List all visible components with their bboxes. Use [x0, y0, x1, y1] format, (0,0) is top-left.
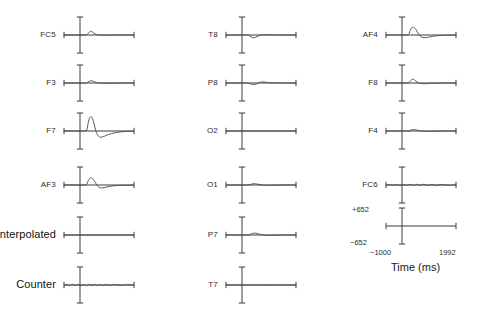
- channel-label-p8: P8: [174, 79, 218, 87]
- channel-cell-t8: [222, 14, 304, 56]
- channel-label-fc6: FC6: [334, 181, 378, 189]
- channel-cell-o1: [222, 164, 304, 206]
- waveform-trace-f4: [386, 130, 456, 132]
- channel-plot-p8: [222, 62, 300, 104]
- erp-channel-grid: FC5F3F7AF3InterpolatedCounterT8P8O2O1P7T…: [0, 0, 477, 320]
- channel-cell-f7: [60, 110, 142, 152]
- channel-label-t7: T7: [174, 281, 218, 289]
- channel-cell-p8: [222, 62, 304, 104]
- channel-label-f8: F8: [334, 79, 378, 87]
- channel-label-fc5: FC5: [12, 31, 56, 39]
- waveform-trace-fc5: [64, 31, 134, 35]
- x-axis-min-label: −1000: [370, 249, 391, 257]
- channel-cell-f8: [382, 62, 464, 104]
- channel-cell-af4: [382, 14, 464, 56]
- channel-plot-f8: [382, 62, 460, 104]
- channel-cell-f3: [60, 62, 142, 104]
- channel-cell-fc5: [60, 14, 142, 56]
- channel-label-t8: T8: [174, 31, 218, 39]
- channel-cell-counter: [60, 264, 142, 306]
- channel-cell-p7: [222, 214, 304, 256]
- scale-bar-cell: [382, 205, 464, 247]
- waveform-trace-o1: [226, 184, 296, 186]
- waveform-trace-t8: [226, 35, 296, 38]
- x-axis-title: Time (ms): [391, 262, 440, 273]
- channel-cell-f4: [382, 110, 464, 152]
- channel-plot-t8: [222, 14, 300, 56]
- channel-plot-f7: [60, 110, 138, 152]
- channel-plot-p7: [222, 214, 300, 256]
- channel-plot-t7: [222, 264, 300, 306]
- waveform-trace-f7: [64, 117, 134, 138]
- channel-cell-interpolated: [60, 214, 142, 256]
- channel-plot-fc6: [382, 164, 460, 206]
- channel-label-o2: O2: [174, 127, 218, 135]
- channel-plot-af3: [60, 164, 138, 206]
- channel-cell-fc6: [382, 164, 464, 206]
- scale-axes: [382, 205, 460, 247]
- channel-cell-af3: [60, 164, 142, 206]
- channel-plot-interpolated: [60, 214, 138, 256]
- channel-label-f7: F7: [12, 127, 56, 135]
- y-axis-min-label: −652: [350, 239, 367, 247]
- waveform-trace-f3: [64, 81, 134, 83]
- waveform-trace-af3: [64, 178, 134, 188]
- waveform-trace-af4: [386, 27, 456, 38]
- channel-cell-t7: [222, 264, 304, 306]
- y-axis-max-label: +652: [352, 206, 369, 214]
- channel-label-af3: AF3: [12, 181, 56, 189]
- channel-plot-counter: [60, 264, 138, 306]
- channel-plot-fc5: [60, 14, 138, 56]
- channel-plot-o1: [222, 164, 300, 206]
- x-axis-max-label: 1992: [439, 249, 456, 257]
- channel-plot-o2: [222, 110, 300, 152]
- channel-label-f4: F4: [334, 127, 378, 135]
- channel-label-af4: AF4: [334, 31, 378, 39]
- channel-cell-o2: [222, 110, 304, 152]
- channel-label-interpolated: Interpolated: [0, 229, 56, 240]
- channel-label-counter: Counter: [0, 279, 56, 290]
- channel-label-o1: O1: [174, 181, 218, 189]
- channel-label-f3: F3: [12, 79, 56, 87]
- channel-plot-f4: [382, 110, 460, 152]
- channel-plot-f3: [60, 62, 138, 104]
- channel-label-p7: P7: [174, 231, 218, 239]
- channel-plot-af4: [382, 14, 460, 56]
